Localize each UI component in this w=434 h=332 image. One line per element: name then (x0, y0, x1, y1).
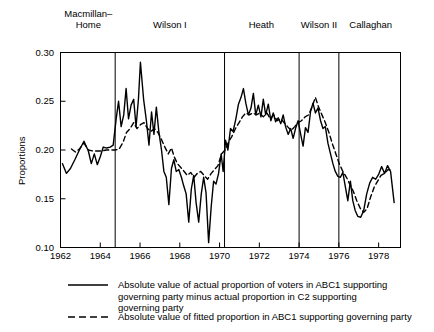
era-label-wilsoni: Wilson I (130, 19, 210, 30)
era-label-macmillanhome: Macmillan–Home (48, 8, 128, 30)
x-axis-tick-label: 1970 (200, 250, 240, 261)
x-axis-tick-label: 1962 (41, 250, 81, 261)
era-label-callaghan: Callaghan (331, 19, 411, 30)
x-axis-tick-label: 1968 (160, 250, 200, 261)
y-axis-tick-label: 0.30 (18, 47, 54, 58)
chart-figure: 0.300.250.200.150.10Proportions196219641… (0, 0, 434, 332)
x-axis-tick-label: 1976 (319, 250, 359, 261)
x-axis-tick-label: 1974 (279, 250, 319, 261)
legend-label-solid: Absolute value of actual proportion of v… (118, 279, 428, 314)
y-axis-title: Proportions (16, 136, 27, 185)
x-axis-tick-label: 1978 (359, 250, 399, 261)
y-axis-tick-label: 0.25 (18, 95, 54, 106)
x-axis-tick-label: 1972 (239, 250, 279, 261)
x-axis-tick-label: 1966 (120, 250, 160, 261)
legend-label-dashed: Absolute value of fitted proportion in A… (118, 311, 428, 323)
x-axis-tick-label: 1964 (80, 250, 120, 261)
series-line-actual (62, 62, 394, 242)
y-axis-tick-label: 0.15 (18, 193, 54, 204)
